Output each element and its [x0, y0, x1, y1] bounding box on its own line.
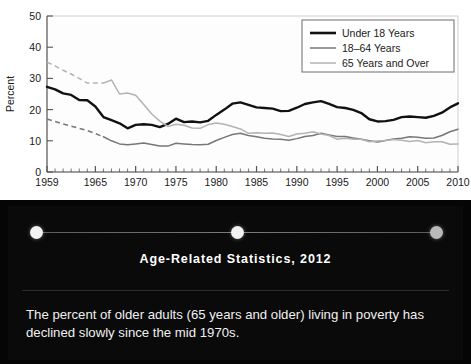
step-dot-1[interactable] [30, 226, 43, 239]
x-tick-label: 2000 [366, 176, 390, 188]
slide-body-text: The percent of older adults (65 years an… [26, 306, 449, 342]
slide-divider [22, 290, 449, 291]
legend-label-age65plus: 65 Years and Over [342, 57, 429, 69]
slide-stepper[interactable] [30, 226, 443, 240]
chart-canvas: 01020304050Percent1959196519701975198019… [0, 0, 471, 200]
step-dot-2[interactable] [231, 226, 244, 239]
x-tick-label: 1995 [325, 176, 349, 188]
x-tick-label: 2010 [446, 176, 470, 188]
x-tick-label: 1970 [124, 176, 148, 188]
y-axis-label: Percent [4, 76, 16, 112]
x-tick-label: 1975 [164, 176, 188, 188]
y-tick-label: 10 [29, 135, 41, 147]
y-tick-label: 20 [29, 104, 41, 116]
x-tick-label: 2005 [406, 176, 430, 188]
legend-label-age18to64: 18–64 Years [342, 42, 400, 54]
y-tick-label: 40 [29, 41, 41, 53]
x-tick-label: 1965 [84, 176, 108, 188]
x-tick-label: 1980 [205, 176, 229, 188]
y-tick-label: 50 [29, 10, 41, 22]
step-dot-3[interactable] [430, 226, 443, 239]
slide-panel: Age-Related Statistics, 2012 The percent… [0, 200, 471, 364]
x-tick-label: 1959 [35, 176, 59, 188]
slide-inner-frame: Age-Related Statistics, 2012 The percent… [8, 206, 463, 360]
x-tick-label: 1990 [285, 176, 309, 188]
poverty-rate-chart: 01020304050Percent1959196519701975198019… [0, 0, 471, 200]
x-tick-label: 1985 [245, 176, 269, 188]
y-tick-label: 30 [29, 72, 41, 84]
slide-title: Age-Related Statistics, 2012 [8, 252, 463, 266]
legend-label-under18: Under 18 Years [342, 27, 414, 39]
